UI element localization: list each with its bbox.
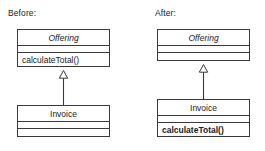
diagram-canvas: Before: After: Offering calculateTotal()… <box>0 0 265 151</box>
class-attributes-offering-before <box>18 45 109 52</box>
class-name-invoice-before: Invoice <box>18 106 109 121</box>
class-attributes-offering-after <box>158 45 249 52</box>
class-name-offering-before: Offering <box>18 30 109 45</box>
class-operations-invoice-before <box>18 128 109 136</box>
class-operations-offering-after <box>158 52 249 60</box>
class-attributes-invoice-before <box>18 121 109 128</box>
class-box-offering-before[interactable]: Offering calculateTotal() <box>17 29 110 67</box>
class-operation-calculate-total-after: calculateTotal() <box>158 122 249 136</box>
class-attributes-invoice-after <box>158 115 249 122</box>
class-name-invoice-after: Invoice <box>158 100 249 115</box>
class-box-offering-after[interactable]: Offering <box>157 29 250 61</box>
generalization-arrow-before <box>59 71 67 106</box>
panel-caption-after: After: <box>155 8 176 18</box>
class-name-offering-after: Offering <box>158 30 249 45</box>
class-box-invoice-after[interactable]: Invoice calculateTotal() <box>157 99 250 137</box>
class-box-invoice-before[interactable]: Invoice <box>17 105 110 137</box>
panel-caption-before: Before: <box>8 8 36 18</box>
class-operation-calculate-total-before: calculateTotal() <box>18 52 109 66</box>
generalization-arrow-after <box>199 65 207 100</box>
